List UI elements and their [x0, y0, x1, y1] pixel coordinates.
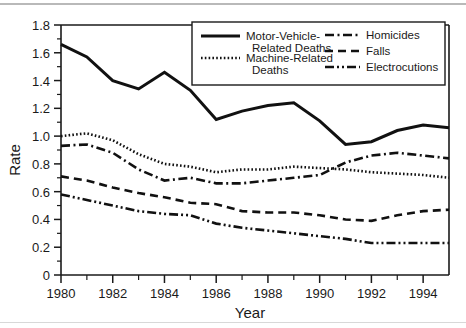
legend: Motor-Vehicle-Related DeathsMachine-Rela…	[192, 22, 445, 85]
y-tick-label: 1.2	[32, 101, 50, 116]
legend-label-0: Motor-Vehicle-	[246, 30, 320, 42]
y-tick-label: 1.4	[32, 74, 50, 89]
legend-label-2: Homicides	[366, 29, 420, 41]
y-tick-label: 0.6	[32, 185, 50, 200]
series-line-electrocutions	[61, 194, 449, 243]
y-tick-label: 0.4	[32, 212, 50, 227]
chart-figure: Rate Year 00.20.40.60.81.01.21.41.61.8 1…	[0, 0, 466, 328]
y-tick-label: 1.6	[32, 46, 50, 61]
series-line-homicides	[61, 144, 449, 183]
x-axis-title: Year	[235, 304, 265, 321]
x-tick-label: 1982	[98, 286, 127, 301]
legend-label-1: Machine-Related	[246, 52, 333, 64]
y-tick-label: 1.8	[32, 18, 50, 33]
x-tick-label: 1986	[202, 286, 231, 301]
x-tick-label: 1994	[409, 286, 438, 301]
x-tick-label: 1984	[150, 286, 179, 301]
line-chart: Rate Year 00.20.40.60.81.01.21.41.61.8 1…	[0, 0, 466, 328]
scan-artifact-bottom	[0, 322, 466, 323]
y-tick-label: 0.2	[32, 240, 50, 255]
x-tick-label: 1992	[357, 286, 386, 301]
x-tick-label: 1980	[47, 286, 76, 301]
y-tick-label: 0.8	[32, 157, 50, 172]
x-tick-label: 1988	[253, 286, 282, 301]
y-axis-title: Rate	[6, 144, 23, 176]
legend-label-4: Electrocutions	[366, 61, 438, 73]
y-tick-label: 1.0	[32, 129, 50, 144]
y-tick-label: 0	[43, 268, 50, 283]
y-axis-ticks: 00.20.40.60.81.01.21.41.61.8	[32, 18, 61, 283]
legend-label-1-line2: Deaths	[252, 64, 289, 76]
x-tick-label: 1990	[305, 286, 334, 301]
x-axis-ticks: 19801982198419861988199019921994	[47, 275, 438, 301]
scan-artifact-top	[0, 3, 466, 5]
legend-label-3: Falls	[366, 45, 391, 57]
